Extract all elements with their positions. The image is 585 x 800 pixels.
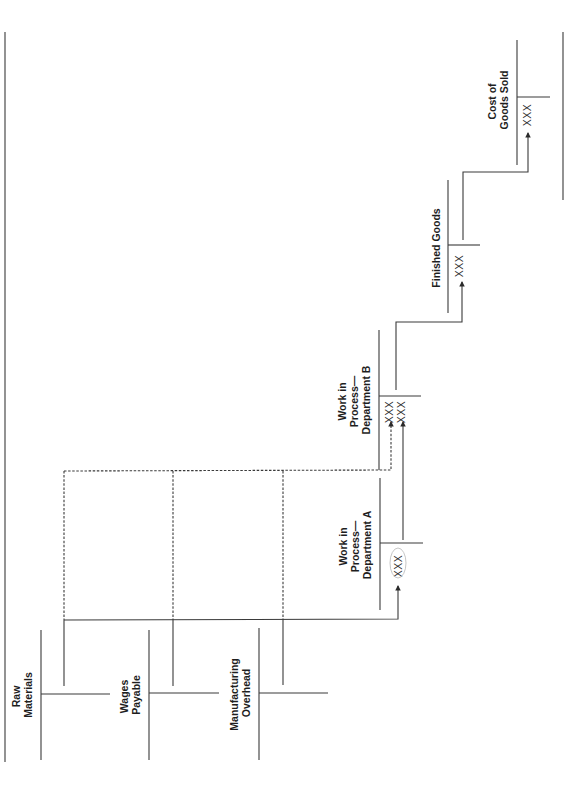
label-wages-payable-2: Payable bbox=[130, 675, 142, 715]
svg-text:Work in Process— D: Work in Process— Department A bbox=[337, 510, 373, 579]
entry-fg-debit: XXX bbox=[453, 255, 465, 278]
label-wip-a-1: Work in bbox=[337, 527, 349, 565]
svg-text:Wages Payable: Wages Payable bbox=[118, 675, 142, 715]
cost-flow-diagram: Raw Materials Wages Payable Manufacturin… bbox=[0, 0, 585, 800]
label-wip-b-3: Department B bbox=[360, 365, 372, 434]
t-account-wip-a: Work in Process— Department A XXX bbox=[337, 478, 423, 610]
label-wages-payable-1: Wages bbox=[118, 680, 130, 714]
entry-wip-b-debit-1: XXX bbox=[383, 401, 395, 424]
t-account-finished-goods: Finished Goods XXX bbox=[430, 180, 480, 313]
label-raw-materials-2: Materials bbox=[22, 672, 34, 718]
label-moh-2: Overhead bbox=[240, 669, 252, 717]
label-finished-goods: Finished Goods bbox=[430, 208, 442, 287]
t-account-manufacturing-overhead: Manufacturing Overhead bbox=[228, 628, 328, 760]
flow-to-wip-b-dashed bbox=[64, 422, 391, 620]
t-account-cogs: Cost of Goods Sold XXX bbox=[486, 40, 550, 165]
t-account-wages-payable: Wages Payable bbox=[118, 630, 219, 760]
t-account-raw-materials: Raw Materials bbox=[10, 630, 110, 760]
label-cogs-2: Goods Sold bbox=[498, 71, 510, 130]
entry-cogs-debit: XXX bbox=[521, 104, 533, 127]
svg-text:Cost of Goods Sold: Cost of Goods Sold bbox=[486, 71, 510, 130]
svg-text:Work in Process— D: Work in Process— Department B bbox=[336, 365, 372, 434]
label-wip-b-1: Work in bbox=[336, 382, 348, 420]
svg-text:Raw Materials: Raw Materials bbox=[10, 672, 34, 718]
label-raw-materials-1: Raw bbox=[10, 685, 22, 707]
label-cogs-1: Cost of bbox=[486, 83, 498, 120]
entry-wip-b-debit-2: XXX bbox=[395, 401, 407, 424]
label-wip-a-2: Process— bbox=[349, 520, 361, 572]
label-moh-1: Manufacturing bbox=[228, 658, 240, 730]
entry-wip-a-debit: XXX bbox=[392, 555, 404, 578]
svg-text:Manufacturing Overhead: Manufacturing Overhead bbox=[228, 655, 252, 730]
label-wip-b-2: Process— bbox=[348, 375, 360, 427]
label-wip-a-3: Department A bbox=[361, 510, 373, 579]
flow-fg-to-cogs bbox=[463, 133, 528, 240]
flow-wip-b-to-fg bbox=[396, 282, 462, 390]
svg-text:Finished Goods: Finished Goods bbox=[430, 208, 442, 287]
t-account-wip-b: Work in Process— Department B XXX XXX bbox=[336, 330, 421, 470]
